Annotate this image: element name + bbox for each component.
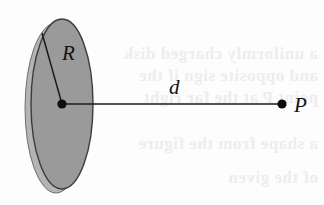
disk-center-point-dot <box>57 99 66 108</box>
radius-label: R <box>61 41 75 65</box>
field-point-p-dot <box>277 99 286 108</box>
figure-container: a uniformly charged diskand opposite sig… <box>0 0 324 205</box>
distance-label: d <box>169 75 180 99</box>
point-p-label: P <box>293 93 307 117</box>
charged-disk-figure: R d P <box>0 0 324 205</box>
